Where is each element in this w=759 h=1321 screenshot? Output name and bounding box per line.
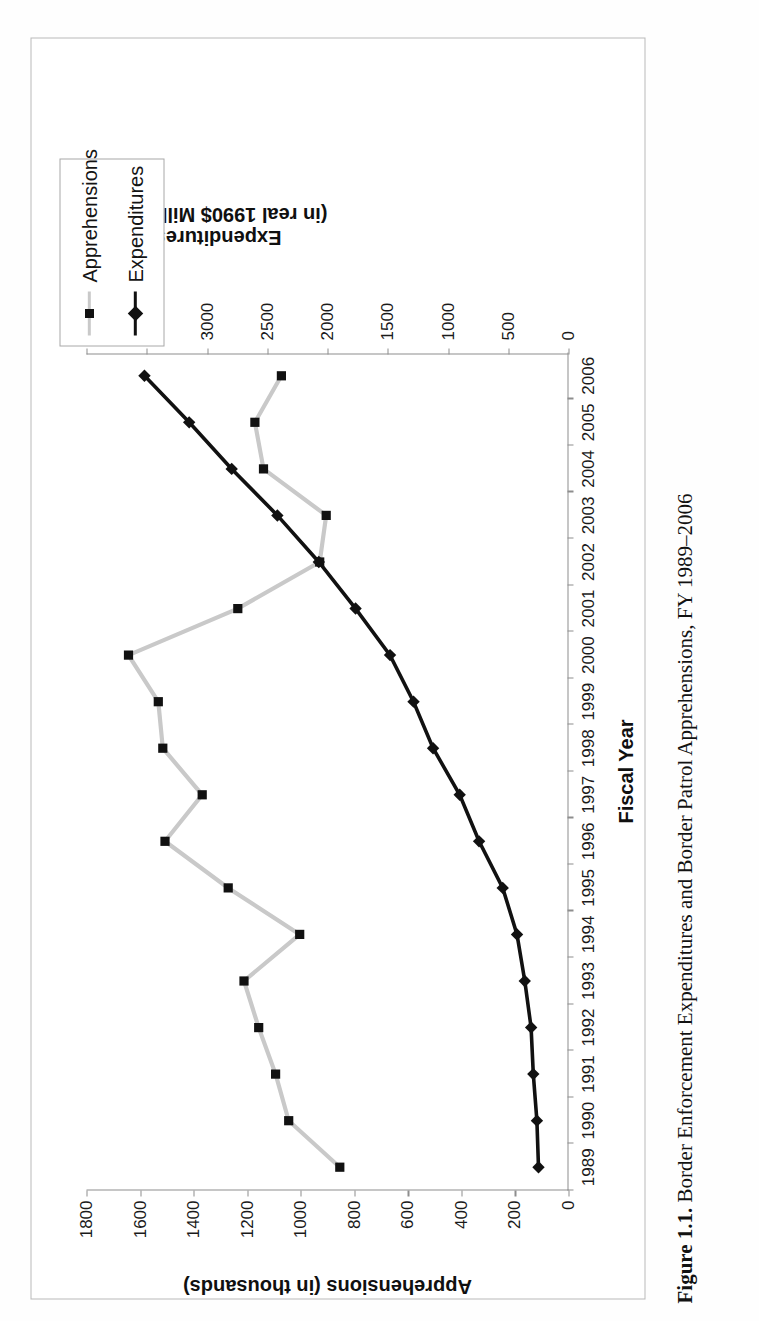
- figure-caption: Figure 1.1. Border Enforcement Expenditu…: [672, 13, 697, 1303]
- bottom-tick-mark: [567, 863, 573, 864]
- right-tick-mark: [568, 348, 569, 354]
- bottom-tick-mark: [567, 956, 573, 957]
- bottom-tick-label: 1995: [578, 868, 598, 906]
- bottom-tick-label: 1992: [578, 1008, 598, 1046]
- left-tick-label: 200: [504, 1200, 524, 1228]
- bottom-tick-label: 1997: [578, 775, 598, 813]
- legend-label: Apprehensions: [78, 149, 101, 282]
- left-tick-mark: [193, 1190, 194, 1196]
- left-axis-line: [86, 1189, 568, 1190]
- left-tick-mark: [140, 1190, 141, 1196]
- data-point-square: [123, 650, 132, 659]
- right-tick-mark: [207, 348, 208, 354]
- data-point-square: [258, 464, 267, 473]
- legend-item-expenditures: Expenditures: [112, 169, 158, 335]
- series-expenditures: [138, 369, 544, 1173]
- left-tick-mark: [300, 1190, 301, 1196]
- figure-page: Figure 1.1. Border Enforcement Expenditu…: [0, 0, 759, 1321]
- bottom-tick-mark: [567, 1096, 573, 1097]
- data-point-square: [295, 929, 304, 938]
- bottom-tick-mark: [567, 537, 573, 538]
- left-tick-label: 1800: [76, 1200, 96, 1238]
- figure-caption-text: Border Enforcement Expenditures and Bord…: [672, 493, 696, 1207]
- rotated-figure-container: Figure 1.1. Border Enforcement Expenditu…: [0, 0, 759, 1321]
- bottom-tick-label: 1996: [578, 822, 598, 860]
- data-point-square: [254, 1023, 263, 1032]
- left-tick-label: 400: [451, 1200, 471, 1228]
- data-point-square: [321, 510, 330, 519]
- bottom-tick-mark: [567, 1142, 573, 1143]
- bottom-tick-mark: [567, 444, 573, 445]
- right-tick-label: 500: [498, 312, 518, 340]
- data-point-diamond: [530, 1114, 542, 1126]
- right-tick-label: 2500: [257, 302, 277, 340]
- left-tick-mark: [461, 1190, 462, 1196]
- bottom-tick-label: 1991: [578, 1055, 598, 1093]
- right-tick-mark: [508, 348, 509, 354]
- right-tick-mark: [448, 348, 449, 354]
- data-point-square: [153, 697, 162, 706]
- bottom-tick-mark: [567, 816, 573, 817]
- bottom-tick-label: 1989: [578, 1148, 598, 1186]
- right-tick-mark: [327, 348, 328, 354]
- left-tick-mark: [354, 1190, 355, 1196]
- legend-swatch: [80, 291, 98, 335]
- right-tick-label: 2000: [317, 302, 337, 340]
- data-point-diamond: [496, 881, 508, 893]
- plot-area: 020040060080010001200140016001800 050010…: [86, 352, 568, 1190]
- series-plot: [86, 352, 568, 1190]
- right-tick-label: 1500: [377, 302, 397, 340]
- data-point-diamond: [453, 788, 465, 800]
- data-point-square: [276, 371, 285, 380]
- bottom-tick-label: 1999: [578, 682, 598, 720]
- left-tick-label: 1200: [237, 1200, 257, 1238]
- data-point-square: [284, 1116, 293, 1125]
- left-tick-label: 1000: [290, 1200, 310, 1238]
- series-line: [144, 375, 538, 1166]
- legend-label: Expenditures: [124, 165, 147, 282]
- data-point-diamond: [532, 1161, 544, 1173]
- bottom-tick-label: 2000: [578, 636, 598, 674]
- bottom-tick-mark: [567, 677, 573, 678]
- left-tick-label: 800: [344, 1200, 364, 1228]
- data-point-diamond: [510, 928, 522, 940]
- right-tick-mark: [387, 348, 388, 354]
- legend-item-apprehensions: Apprehensions: [66, 169, 112, 335]
- data-point-square: [223, 883, 232, 892]
- right-tick-mark: [146, 348, 147, 354]
- data-point-diamond: [407, 695, 419, 707]
- series-apprehensions: [123, 371, 344, 1172]
- bottom-tick-mark: [567, 770, 573, 771]
- right-tick-mark: [267, 348, 268, 354]
- left-tick-label: 600: [397, 1200, 417, 1228]
- bottom-tick-label: 2002: [578, 543, 598, 581]
- chart-frame: 020040060080010001200140016001800 050010…: [30, 37, 645, 1299]
- figure-number: Figure 1.1.: [672, 1207, 696, 1303]
- right-tick-label: 3000: [197, 302, 217, 340]
- left-tick-mark: [247, 1190, 248, 1196]
- data-point-square: [250, 417, 259, 426]
- bottom-tick-mark: [567, 1049, 573, 1050]
- data-point-diamond: [524, 1021, 536, 1033]
- bottom-tick-mark: [567, 630, 573, 631]
- data-point-square: [271, 1069, 280, 1078]
- bottom-tick-label: 2004: [578, 449, 598, 487]
- chart-legend: ApprehensionsExpenditures: [59, 158, 164, 346]
- right-tick-label: 1000: [438, 302, 458, 340]
- left-tick-mark: [568, 1190, 569, 1196]
- bottom-tick-mark: [567, 1189, 573, 1190]
- data-point-diamond: [518, 974, 530, 986]
- legend-square-marker-icon: [85, 309, 94, 318]
- data-point-square: [160, 836, 169, 845]
- bottom-tick-mark: [567, 584, 573, 585]
- data-point-square: [158, 743, 167, 752]
- data-point-square: [233, 604, 242, 613]
- bottom-tick-label: 1993: [578, 962, 598, 1000]
- bottom-tick-label: 1990: [578, 1101, 598, 1139]
- bottom-tick-mark: [567, 1003, 573, 1004]
- data-point-diamond: [527, 1067, 539, 1079]
- bottom-tick-mark: [567, 397, 573, 398]
- bottom-tick-label: 2006: [578, 356, 598, 394]
- series-line: [128, 375, 339, 1166]
- left-tick-label: 0: [558, 1200, 578, 1209]
